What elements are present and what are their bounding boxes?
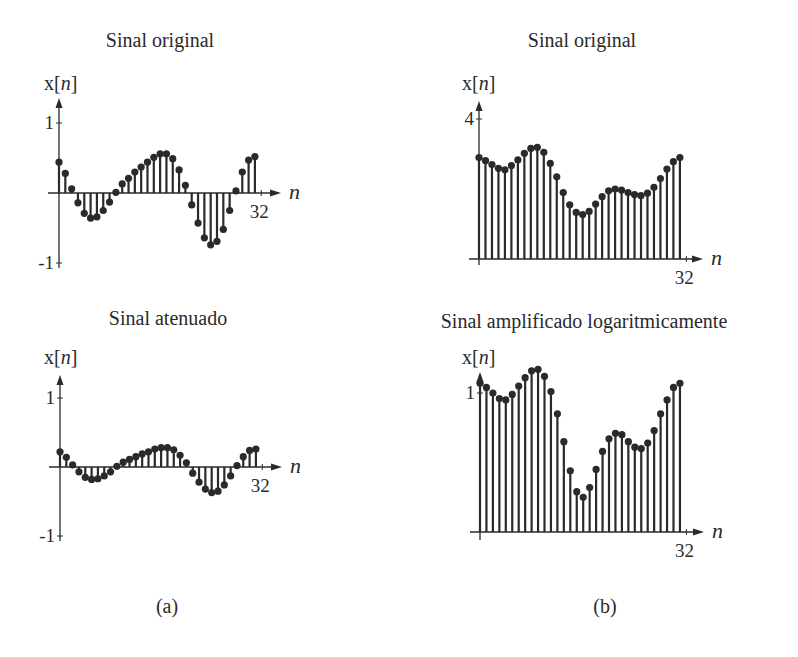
stem-marker	[207, 241, 214, 248]
stem-marker	[189, 470, 196, 477]
stem-marker	[553, 173, 560, 180]
y-tick-label: -1	[38, 252, 54, 273]
stem-marker	[239, 168, 246, 175]
stem-marker	[194, 220, 201, 227]
stem-marker	[566, 201, 573, 208]
stem-marker	[605, 187, 612, 194]
stem-marker	[631, 444, 638, 451]
stem-marker	[132, 453, 139, 460]
stem-marker	[618, 186, 625, 193]
stem-marker	[488, 161, 495, 168]
stem-marker	[232, 187, 239, 194]
stem-marker	[107, 468, 114, 475]
stem-marker	[113, 463, 120, 470]
stem-marker	[670, 384, 677, 391]
stem-marker	[151, 445, 158, 452]
stem-marker	[63, 454, 70, 461]
stem-marker	[509, 391, 516, 398]
x-axis-label: n	[712, 518, 723, 543]
stem-marker	[522, 374, 529, 381]
stem-marker	[534, 366, 541, 373]
stem-marker	[131, 168, 138, 175]
stem-marker	[220, 226, 227, 233]
stem-marker	[150, 154, 157, 161]
x-axis-label: n	[290, 453, 301, 478]
stem-marker	[495, 165, 502, 172]
figure-canvas: Sinal originalx[n]n321-1Sinal atenuadox[…	[0, 0, 798, 657]
panel-label-1: (b)	[593, 595, 616, 618]
stem-marker	[657, 175, 664, 182]
y-axis-arrow-icon	[57, 375, 64, 385]
stem-marker	[644, 439, 651, 446]
x-tick-label: 32	[251, 475, 270, 496]
stem-marker	[650, 184, 657, 191]
y-axis-label: x[n]	[44, 72, 77, 94]
stem-marker	[637, 192, 644, 199]
stem-marker	[579, 211, 586, 218]
plot-title: Sinal atenuado	[109, 307, 227, 329]
stem-plot-2: Sinal originalx[n]n324	[462, 29, 722, 288]
stem-marker	[126, 456, 133, 463]
stem-marker	[175, 166, 182, 173]
plot-title: Sinal original	[528, 29, 637, 52]
y-axis-label: x[n]	[462, 346, 495, 368]
stem-marker	[163, 150, 170, 157]
figure: Sinal originalx[n]n321-1Sinal atenuadox[…	[0, 0, 798, 657]
stem-marker	[676, 154, 683, 161]
stem-marker	[489, 389, 496, 396]
stem-marker	[580, 494, 587, 501]
stem-marker	[68, 185, 75, 192]
stem-marker	[670, 158, 677, 165]
stem-marker	[534, 144, 541, 151]
stem-marker	[106, 199, 113, 206]
stem-marker	[176, 452, 183, 459]
stem-marker	[554, 410, 561, 417]
stem-marker	[618, 431, 625, 438]
stem-marker	[94, 475, 101, 482]
stem-marker	[592, 200, 599, 207]
stem-marker	[599, 448, 606, 455]
x-axis-arrow-icon	[692, 256, 703, 263]
stem-marker	[528, 367, 535, 374]
stem-marker	[593, 466, 600, 473]
y-tick-label: 1	[466, 382, 476, 403]
stem-marker	[125, 175, 132, 182]
stem-marker	[547, 388, 554, 395]
stem-marker	[547, 160, 554, 167]
stem-marker	[663, 165, 670, 172]
stem-marker	[502, 396, 509, 403]
y-axis-arrow-icon	[476, 101, 483, 111]
stem-marker	[611, 185, 618, 192]
stem-marker	[170, 446, 177, 453]
y-tick-label: 1	[46, 387, 56, 408]
stem-marker	[573, 209, 580, 216]
stem-marker	[246, 447, 253, 454]
y-axis-label: x[n]	[44, 346, 77, 368]
stem-marker	[508, 162, 515, 169]
x-axis-arrow-icon	[693, 529, 704, 536]
stem-marker	[560, 189, 567, 196]
stem-marker	[514, 156, 521, 163]
y-tick-label: 1	[45, 112, 55, 133]
stem-marker	[631, 191, 638, 198]
stem-marker	[119, 180, 126, 187]
stem-marker	[475, 154, 482, 161]
stem-marker	[624, 189, 631, 196]
stem-marker	[676, 380, 683, 387]
y-axis-arrow-icon	[56, 98, 63, 108]
stem-marker	[56, 448, 63, 455]
stems	[56, 444, 259, 496]
stem-marker	[625, 438, 632, 445]
stem-marker	[182, 182, 189, 189]
stem-marker	[157, 150, 164, 157]
stem-marker	[101, 472, 108, 479]
plot-title: Sinal original	[106, 29, 215, 52]
stem-marker	[202, 485, 209, 492]
stem-marker	[93, 213, 100, 220]
stem-marker	[87, 215, 94, 222]
stem-marker	[521, 150, 528, 157]
stem-marker	[120, 459, 127, 466]
stem-marker	[663, 396, 670, 403]
stem-marker	[100, 207, 107, 214]
stem-marker	[69, 461, 76, 468]
